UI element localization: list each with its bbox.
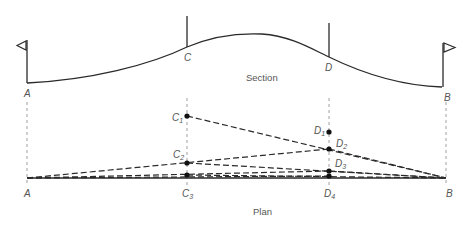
- point-d2: [326, 146, 331, 151]
- label-section-d: D: [325, 62, 332, 73]
- flag-a-icon: [17, 41, 26, 50]
- section-plan-diagram: A B C D Section C1 C2 C3: [0, 0, 470, 228]
- label-section-c: C: [184, 52, 192, 63]
- point-c1: [184, 113, 189, 118]
- label-d3: D3: [335, 158, 346, 170]
- label-d4: D4: [324, 188, 335, 200]
- point-c3: [184, 172, 189, 177]
- line-d2-b: [329, 149, 446, 178]
- label-c3: C3: [182, 188, 193, 200]
- point-c2: [184, 160, 189, 165]
- label-plan-b: B: [446, 188, 453, 199]
- label-d1: D1: [314, 125, 325, 137]
- label-c2: C2: [173, 149, 184, 161]
- label-plan-a: A: [23, 188, 31, 199]
- label-section-b: B: [444, 92, 451, 103]
- point-d4: [326, 173, 331, 178]
- plan-caption: Plan: [253, 206, 272, 217]
- plan-view: C1 C2 C3 D1 D2 D3 D4 A B Plan: [23, 98, 453, 217]
- line-a-d3: [27, 171, 329, 178]
- label-c1: C1: [172, 112, 183, 124]
- ground-profile-curve: [27, 34, 442, 87]
- flag-b-icon: [444, 43, 455, 52]
- section-view: A B C D Section: [17, 16, 455, 103]
- point-d3: [326, 168, 331, 173]
- point-d1: [326, 129, 331, 134]
- section-caption: Section: [246, 72, 278, 83]
- label-section-a: A: [23, 88, 31, 99]
- label-d2: D2: [336, 138, 347, 150]
